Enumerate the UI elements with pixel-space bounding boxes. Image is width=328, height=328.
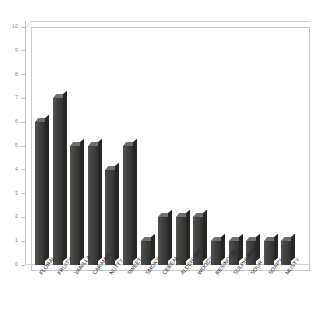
bar-soapy[interactable] <box>264 241 274 265</box>
bar-caramel[interactable] <box>88 146 98 265</box>
bar-side-face <box>45 115 49 261</box>
bar-chart: 012345678910 FLORALFRUITYVANILLACARAMELN… <box>0 0 328 328</box>
bars-layer <box>0 0 328 328</box>
bar-side-face <box>98 139 102 261</box>
bar-side-face <box>186 210 190 261</box>
bar-smoky[interactable] <box>141 241 151 265</box>
bar-sweet[interactable] <box>123 146 133 265</box>
bar-fruity[interactable] <box>53 98 63 265</box>
bar-floral[interactable] <box>35 122 45 265</box>
bar-side-face <box>203 210 207 261</box>
bar-side-face <box>151 234 155 261</box>
bar-side-face <box>168 210 172 261</box>
bar-side-face <box>63 91 67 261</box>
bar-side-face <box>133 139 137 261</box>
bar-side-face <box>239 234 243 261</box>
bar-vanilla[interactable] <box>70 146 80 265</box>
bar-side-face <box>80 139 84 261</box>
bar-resinous[interactable] <box>211 241 221 265</box>
bar-side-face <box>115 162 119 261</box>
